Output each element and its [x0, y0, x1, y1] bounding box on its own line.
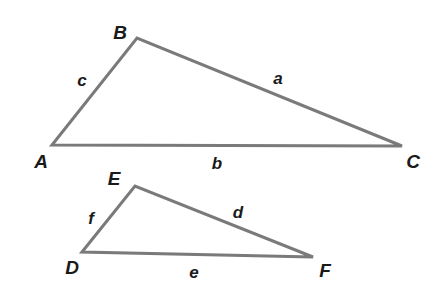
side-label-e: e — [189, 264, 198, 281]
vertex-label-a: A — [34, 152, 48, 171]
side-label-d: d — [233, 204, 243, 221]
vertex-label-d: D — [65, 258, 79, 277]
geometry-figure: A B C a b c D E F d e f — [0, 0, 437, 308]
vertex-label-b: B — [113, 23, 127, 42]
vertex-label-f: F — [319, 261, 331, 280]
side-label-c: c — [77, 72, 86, 89]
vertex-label-c: C — [406, 152, 420, 171]
side-label-a: a — [273, 70, 282, 87]
side-label-f: f — [88, 210, 94, 227]
vertex-label-e: E — [108, 169, 121, 188]
triangle-abc-shape — [52, 38, 402, 146]
triangle-abc-outline — [52, 38, 402, 146]
triangle-def-outline — [82, 186, 313, 257]
side-label-b: b — [212, 155, 222, 172]
triangle-def-shape — [82, 186, 313, 257]
